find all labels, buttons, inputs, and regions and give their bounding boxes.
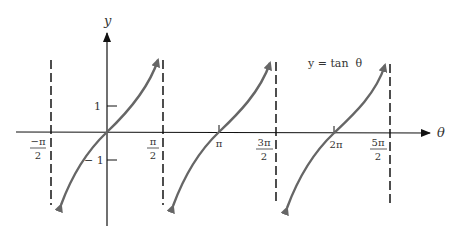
svg-text:2: 2: [150, 150, 156, 161]
x-tick-label-5pi-over-2: 5π 2: [370, 137, 387, 162]
y-tick-label-1: 1: [94, 100, 101, 113]
svg-text:π: π: [150, 136, 157, 147]
x-tick-label-pi-over-2: π 2: [147, 136, 159, 161]
x-tick-label-pi: π: [216, 138, 223, 149]
x-tick-label-3pi-over-2: 3π 2: [256, 137, 273, 162]
tangent-graph: y θ 1 − 1 −π 2 π 2 π 3π 2 2π 5π 2 y = ta…: [0, 0, 457, 236]
tan-curves: [61, 60, 385, 208]
x-tick-label-neg-pi-over-2: −π 2: [30, 136, 46, 161]
svg-text:3π: 3π: [258, 137, 271, 148]
svg-text:2: 2: [35, 150, 41, 161]
svg-text:2: 2: [261, 151, 267, 162]
x-axis: [16, 132, 430, 133]
tan-branch-pi: [173, 63, 270, 206]
tan-branch-2pi: [287, 65, 385, 208]
x-tick-label-2pi: 2π: [330, 139, 343, 150]
x-axis-label: θ: [437, 125, 445, 140]
y-tick-label-neg1: − 1: [84, 154, 104, 167]
svg-text:2: 2: [375, 151, 381, 162]
svg-text:5π: 5π: [372, 137, 385, 148]
equation-label: y = tan θ: [307, 57, 362, 70]
svg-text:−π: −π: [31, 136, 46, 147]
y-axis-label: y: [103, 13, 112, 28]
